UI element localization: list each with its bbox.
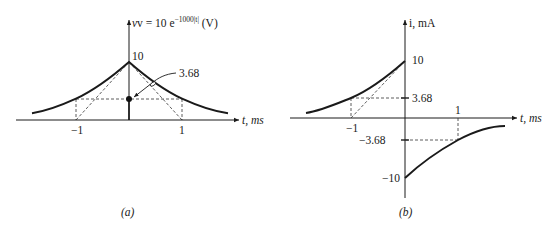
t-axis-label-b: t, ms [520,112,542,125]
tangent-b [351,63,403,118]
peak-label-a: 10 [132,50,144,62]
curve-i-negative-t [306,61,405,113]
tick-label-minus1-b: −1 [346,122,358,134]
tick-label-1-a: 1 [179,124,185,136]
caption-a: (a) [121,206,135,219]
panel-a: vv = 10 e−1000|t| (V) 10 3.68 −1 1 t, ms… [16,15,264,219]
leader-arrow-a [134,73,176,97]
t-axis-label-a: t, ms [242,114,264,127]
panel-b: i, mA 10 3.68 −3.68 −10 −1 1 t, ms (b) [290,17,542,219]
annotation-label-a: 3.68 [179,67,199,79]
leader-break-mark [150,81,157,87]
i-axis-label: i, mA [409,17,436,30]
tangent-left-a [76,62,129,120]
tick-label-minus3.68-b: −3.68 [359,134,386,146]
v-axis-label: vv = 10 e−1000|t| (V) [132,15,218,30]
tick-label-3.68-b: 3.68 [412,92,432,104]
v-axis-label-unit: (V) [199,17,218,30]
v-axis-label-text: v = 10 e [137,17,174,29]
figure: vv = 10 e−1000|t| (V) 10 3.68 −1 1 t, ms… [0,0,549,236]
curve-i-positive-t [405,126,505,178]
tick-label-1-b: 1 [455,104,461,116]
v-axis-label-exponent: −1000|t| [175,15,199,24]
tick-label-minus10-b: −10 [382,172,400,184]
tick-label-minus1-a: −1 [71,124,83,136]
tick-label-10-b: 10 [412,54,424,66]
caption-b: (b) [399,206,413,219]
tangent-right-a [129,62,182,120]
point-3.68 [126,96,132,102]
